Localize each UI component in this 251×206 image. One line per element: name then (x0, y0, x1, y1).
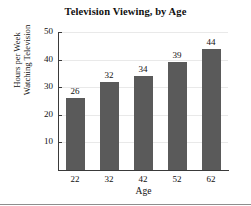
x-axis-line (58, 170, 229, 171)
bar-value-label: 32 (96, 70, 122, 80)
bar (202, 49, 221, 170)
chart-screenshot: Television Viewing, by Age Hours per Wee… (0, 0, 251, 206)
bar-value-label: 39 (164, 50, 190, 60)
bar-value-label: 34 (130, 64, 156, 74)
chart-title: Television Viewing, by Age (0, 6, 251, 17)
y-axis-tick (58, 142, 62, 143)
y-axis-tick-label: 50 (31, 26, 53, 36)
bottom-divider (0, 204, 251, 205)
x-axis-tick-label: 22 (62, 174, 88, 184)
y-axis-tick-label: 10 (31, 136, 53, 146)
x-axis-tick-label: 32 (96, 174, 122, 184)
y-axis-tick (58, 115, 62, 116)
x-axis-tick-label: 52 (164, 174, 190, 184)
y-axis-title-line-1: Hours per Week (12, 32, 23, 87)
y-axis-tick-label: 20 (31, 109, 53, 119)
plot-area (58, 32, 228, 170)
x-axis-tick-label: 42 (130, 174, 156, 184)
gridline (58, 32, 228, 33)
x-axis-title: Age (58, 186, 229, 196)
bar (168, 62, 187, 170)
bar (66, 98, 85, 170)
y-axis-tick-label: 40 (31, 54, 53, 64)
bar (100, 82, 119, 170)
y-axis-tick (58, 32, 62, 33)
x-axis-tick-label: 62 (198, 174, 224, 184)
bar-value-label: 26 (62, 86, 88, 96)
bar (134, 76, 153, 170)
y-axis-tick (58, 60, 62, 61)
bar-value-label: 44 (198, 37, 224, 47)
y-axis-tick-label: 30 (31, 81, 53, 91)
